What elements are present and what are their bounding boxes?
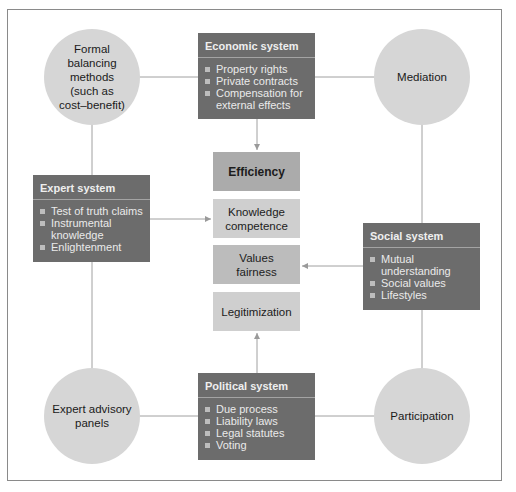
list-item: Liability laws bbox=[205, 415, 310, 427]
list-item: Lifestyles bbox=[370, 289, 475, 301]
value-box-efficiency: Efficiency bbox=[213, 152, 300, 191]
economic-system-title: Economic system bbox=[198, 33, 315, 58]
list-item: Social values bbox=[370, 277, 475, 289]
economic-system-list: Property rights Private contracts Compen… bbox=[198, 58, 315, 116]
circle-expert-advisory-panels: Expert advisory panels bbox=[44, 368, 140, 464]
list-item: Legal statutes bbox=[205, 427, 310, 439]
circle-label: Formal balancing methods (such as cost–b… bbox=[59, 42, 125, 112]
list-item: Instrumental knowledge bbox=[40, 217, 145, 241]
circle-participation: Participation bbox=[374, 368, 470, 464]
list-item: Property rights bbox=[205, 63, 310, 75]
list-item: Test of truth claims bbox=[40, 205, 145, 217]
value-box-legitimization: Legitimization bbox=[213, 292, 300, 331]
social-system-box: Social system Mutual understanding Socia… bbox=[363, 223, 480, 310]
list-item: Enlightenment bbox=[40, 241, 145, 253]
political-system-box: Political system Due process Liability l… bbox=[198, 373, 315, 460]
social-system-title: Social system bbox=[363, 223, 480, 248]
list-item: Mutual understanding bbox=[370, 253, 475, 277]
political-system-list: Due process Liability laws Legal statute… bbox=[198, 398, 315, 456]
circle-label: Expert advisory panels bbox=[52, 402, 131, 430]
circle-label: Mediation bbox=[397, 70, 447, 84]
political-system-title: Political system bbox=[198, 373, 315, 398]
circle-formal-balancing-methods: Formal balancing methods (such as cost–b… bbox=[44, 29, 140, 125]
value-box-knowledge-competence: Knowledge competence bbox=[213, 199, 300, 238]
list-item: Due process bbox=[205, 403, 310, 415]
value-box-values-fairness: Values fairness bbox=[213, 245, 300, 284]
list-item: Private contracts bbox=[205, 75, 310, 87]
economic-system-box: Economic system Property rights Private … bbox=[198, 33, 315, 119]
expert-system-title: Expert system bbox=[33, 175, 150, 200]
circle-mediation: Mediation bbox=[374, 29, 470, 125]
list-item: Compensation for external effects bbox=[205, 87, 310, 111]
social-system-list: Mutual understanding Social values Lifes… bbox=[363, 248, 480, 306]
expert-system-box: Expert system Test of truth claims Instr… bbox=[33, 175, 150, 262]
list-item: Voting bbox=[205, 439, 310, 451]
circle-label: Participation bbox=[390, 409, 453, 423]
expert-system-list: Test of truth claims Instrumental knowle… bbox=[33, 200, 150, 258]
